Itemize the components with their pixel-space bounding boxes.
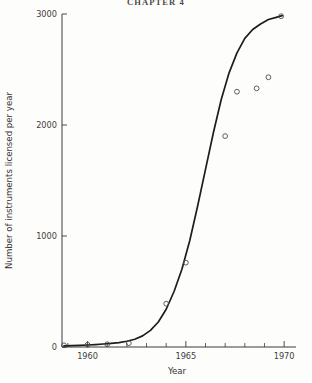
y-tick-label: 2000 (36, 120, 57, 130)
y-tick-label: 3000 (36, 9, 57, 19)
y-tick-label: 0 (52, 342, 57, 352)
data-point-marker (235, 89, 240, 94)
y-axis-title: Number of instruments licensed per year (4, 92, 14, 269)
y-tick-label: 1000 (36, 231, 57, 241)
data-point-marker (266, 75, 271, 80)
figure-container: CHAPTER 4 0100020003000 196019651970 Num… (0, 0, 312, 383)
series-group (62, 14, 284, 348)
x-tick-label: 1970 (274, 351, 295, 361)
x-tick-label: 1960 (77, 351, 98, 361)
logistic-curve (64, 16, 282, 346)
data-point-marker (254, 86, 259, 91)
x-tick-label: 1965 (175, 351, 196, 361)
data-point-marker (223, 134, 228, 139)
chart-svg: 0100020003000 196019651970 Number of ins… (0, 0, 312, 383)
x-axis-title: Year (167, 366, 187, 376)
data-point-markers (62, 14, 284, 348)
axes-group (62, 14, 296, 347)
